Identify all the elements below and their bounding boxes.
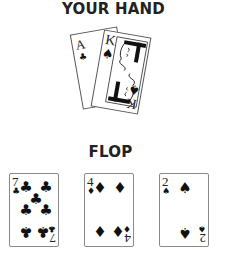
card-four-of-diamonds: 4 ♦ ♦ ♦ ♦ ♦ 4 ♦ xyxy=(84,173,134,247)
spade-icon: ♠ xyxy=(162,187,170,196)
diamond-icon: ♦ xyxy=(113,181,126,196)
card-seven-of-clubs: 7 ♣ ♣ ♣ ♣ ♣ ♣ ♣ ♣ 7 ♣ xyxy=(9,173,59,247)
diamond-icon: ♦ xyxy=(93,225,106,240)
diamond-icon: ♦ xyxy=(93,181,106,196)
card-two-of-spades: 2 ♠ ♠ ♠ 2 ♠ xyxy=(159,173,209,247)
club-icon: ♣ xyxy=(48,224,56,233)
card-corner-bottom: 2 ♠ xyxy=(196,220,206,244)
flop-heading: FLOP xyxy=(0,143,224,161)
spade-icon: ♠ xyxy=(198,224,206,233)
card-rank: A xyxy=(75,38,86,51)
club-icon: ♣ xyxy=(19,224,32,239)
card-corner-bottom: 4 ♦ xyxy=(121,220,131,244)
diamond-icon: ♦ xyxy=(123,224,131,233)
club-icon: ♣ xyxy=(19,203,32,218)
spade-icon: ♠ xyxy=(128,85,141,96)
card-corner-bottom: 7 ♣ xyxy=(46,220,56,244)
club-icon: ♣ xyxy=(39,203,52,218)
spade-icon: ♠ xyxy=(178,181,191,196)
hand-cards: A ♣ K ♠ K ♠ xyxy=(0,0,227,130)
spade-icon: ♠ xyxy=(178,225,191,240)
club-icon: ♣ xyxy=(78,52,88,62)
